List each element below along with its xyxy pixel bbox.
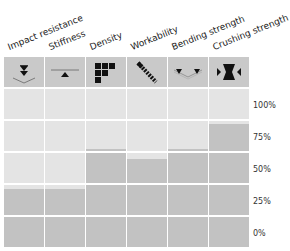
value-fill [127,217,167,247]
value-fill [86,153,126,183]
grid-cell [209,121,249,151]
grid-cell [86,153,126,183]
grid-cell [127,217,167,247]
value-fill [209,217,249,247]
value-fill [168,149,208,151]
y-tick-label: 100% [253,101,276,110]
impact-icon [4,57,44,87]
value-fill [4,189,44,215]
value-fill [4,217,44,247]
y-tick-label: 75% [253,133,271,142]
bending-icon [168,57,208,87]
value-fill [209,124,249,151]
value-fill [86,149,126,151]
grid-cell [209,153,249,183]
value-fill [168,185,208,215]
grid-cell [168,185,208,215]
grid-cell [127,153,167,183]
y-tick-label: 25% [253,197,271,206]
value-fill [45,189,85,215]
grid-cell [4,217,44,247]
grid-cell [45,89,85,119]
grid-cell [86,185,126,215]
category-label: Crushing strength [211,12,290,52]
value-fill [168,217,208,247]
value-fill [209,185,249,215]
value-fill [45,217,85,247]
grid-cell [4,185,44,215]
grid-cell [4,153,44,183]
stiffness-icon [45,57,85,87]
grid-cell [86,121,126,151]
value-fill [127,185,167,215]
grid-cell [127,121,167,151]
workability-icon [127,57,167,87]
grid-cell [168,89,208,119]
y-tick-label: 50% [253,165,271,174]
value-fill [86,185,126,215]
grid-cell [45,217,85,247]
y-tick-label: 0% [253,229,266,238]
value-fill [168,153,208,183]
grid-cell [86,217,126,247]
grid-cell [4,89,44,119]
grid-cell [127,89,167,119]
category-label: Density [88,30,123,52]
value-fill [86,217,126,247]
grid-cell [168,217,208,247]
grid-cell [168,153,208,183]
grid-cell [209,185,249,215]
grid-cell [86,89,126,119]
grid-cell [45,153,85,183]
grid-cell [127,185,167,215]
value-fill [209,153,249,183]
grid-cell [45,121,85,151]
grid-cell [4,121,44,151]
grid-cell [45,185,85,215]
density-icon [86,57,126,87]
grid-cell [209,89,249,119]
grid-cell [168,121,208,151]
crushing-icon [209,57,249,87]
grid-cell [209,217,249,247]
value-fill [127,159,167,183]
